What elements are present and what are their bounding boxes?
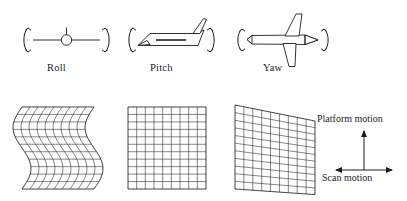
wavy-distorted-grid [13, 107, 103, 189]
figure-vector-layer [0, 0, 407, 201]
aircraft-top-view-icon [247, 14, 318, 67]
aircraft-side-view-icon [138, 19, 207, 46]
aircraft-front-view-icon [33, 28, 100, 46]
attitude-label-pitch: Pitch [150, 62, 173, 73]
attitude-label-roll: Roll [47, 62, 66, 73]
attitude-label-yaw: Yaw [263, 62, 282, 73]
legend-platform-motion-label: Platform motion [317, 113, 383, 124]
legend-scan-motion-label: Scan motion [322, 172, 372, 183]
regular-grid [128, 107, 206, 189]
figure-root: Roll Pitch Yaw Platform motion Scan moti… [0, 0, 407, 201]
legend-arrows [336, 131, 392, 170]
sheared-grid [235, 105, 315, 195]
